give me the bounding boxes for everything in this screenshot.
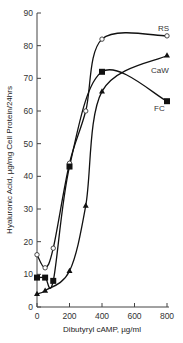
y-tick-label: 90	[24, 8, 34, 18]
data-point-caw	[83, 203, 89, 208]
data-point-fc	[67, 164, 73, 170]
y-tick-label: 70	[24, 73, 34, 83]
x-tick-label: 0	[35, 311, 40, 321]
data-point-rs	[43, 266, 47, 270]
curve-rs	[37, 33, 167, 268]
data-point-fc	[34, 275, 40, 281]
series-label-fc: FC	[154, 104, 165, 113]
axes: 02004006008000102030405060708090	[24, 8, 175, 321]
y-tick-label: 30	[24, 204, 34, 214]
markers	[34, 34, 170, 296]
y-tick-label: 10	[24, 269, 34, 279]
data-point-caw	[67, 268, 73, 273]
y-tick-label: 20	[24, 237, 34, 247]
series-label-caw: CaW	[151, 66, 169, 75]
x-tick-label: 200	[62, 311, 76, 321]
data-point-rs	[165, 34, 169, 38]
curve-fc	[37, 70, 167, 289]
y-tick-label: 40	[24, 171, 34, 181]
y-axis-title: Hyaluronic Acid, µg/mg Cell Protein/24hr…	[5, 86, 14, 234]
data-point-fc	[42, 275, 48, 281]
y-tick-label: 60	[24, 106, 34, 116]
data-point-fc	[99, 69, 105, 75]
y-tick-label: 80	[24, 41, 34, 51]
x-tick-label: 800	[160, 311, 174, 321]
series-label-rs: RS	[158, 24, 169, 33]
data-point-fc	[50, 278, 56, 284]
data-point-rs	[100, 37, 104, 41]
data-point-rs	[35, 253, 39, 257]
data-point-caw	[164, 52, 170, 57]
y-tick-label: 50	[24, 139, 34, 149]
x-tick-label: 400	[95, 311, 109, 321]
x-tick-label: 600	[127, 311, 141, 321]
data-point-rs	[51, 246, 55, 250]
data-point-fc	[164, 98, 170, 104]
data-point-rs	[84, 109, 88, 113]
hyaluronic-acid-chart: 02004006008000102030405060708090 RS CaW …	[0, 0, 183, 343]
x-axis-title: Dibutyryl cAMP, µg/ml	[63, 325, 141, 334]
y-tick-label: 0	[28, 302, 33, 312]
